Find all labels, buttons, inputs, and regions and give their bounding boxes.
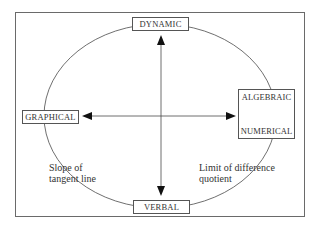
- annotation-limit-line1: Limit of difference: [199, 162, 275, 173]
- annotation-slope-line1: Slope of: [49, 162, 96, 173]
- arrow-down-icon: [157, 186, 165, 196]
- annotation-slope-tangent: Slope of tangent line: [49, 162, 96, 184]
- node-verbal: VERBAL: [133, 200, 190, 214]
- arrow-up-icon: [157, 35, 165, 45]
- node-dynamic: DYNAMIC: [132, 17, 189, 31]
- node-algebraic-label: ALGEBRAIC: [239, 92, 294, 102]
- node-graphical: GRAPHICAL: [22, 110, 79, 124]
- annotation-limit-difference: Limit of difference quotient: [199, 162, 275, 184]
- node-algebraic-numerical: ALGEBRAIC NUMERICAL: [238, 89, 295, 139]
- arrow-right-icon: [226, 112, 236, 120]
- annotation-slope-line2: tangent line: [49, 173, 96, 184]
- arrow-left-icon: [82, 112, 92, 120]
- node-numerical-label: NUMERICAL: [239, 126, 294, 136]
- annotation-limit-line2: quotient: [199, 173, 275, 184]
